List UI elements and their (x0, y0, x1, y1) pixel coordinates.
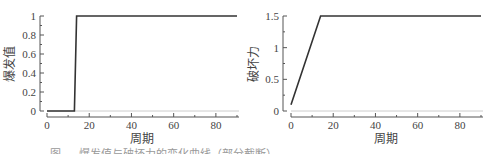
x-tick-label: 40 (370, 119, 382, 131)
y-tick-label: 0.4 (22, 67, 36, 79)
x-axis-label: 周期 (374, 132, 398, 146)
figure-caption: 图 — 爆发值与破坏力的变化曲线（部分截断） (50, 147, 277, 154)
chart-destructive-power: 00.511.5020406080周期破坏力 (246, 10, 483, 146)
x-tick-label: 80 (454, 119, 466, 131)
y-axis-label: 破坏力 (246, 46, 261, 82)
y-tick-label: 0 (274, 105, 280, 117)
y-tick-label: 0.5 (265, 73, 279, 85)
x-axis-label: 周期 (130, 132, 154, 146)
y-tick-label: 1.5 (265, 10, 279, 22)
x-tick-label: 80 (210, 119, 222, 131)
series-line (291, 16, 481, 105)
series-line (47, 16, 237, 111)
y-tick-label: 0.8 (22, 29, 36, 41)
x-tick-label: 20 (328, 119, 340, 131)
y-tick-label: 0.2 (22, 86, 36, 98)
x-tick-label: 20 (84, 119, 96, 131)
x-tick-label: 0 (288, 119, 294, 131)
x-tick-label: 60 (412, 119, 424, 131)
x-tick-label: 60 (168, 119, 180, 131)
y-axis-label: 爆发值 (2, 46, 17, 82)
y-tick-label: 0 (31, 105, 37, 117)
y-tick-label: 1 (31, 10, 37, 22)
chart-burst-value: 00.20.40.60.81020406080周期爆发值 (2, 10, 239, 146)
x-tick-label: 40 (126, 119, 138, 131)
figure: 00.20.40.60.81020406080周期爆发值 00.511.5020… (0, 0, 486, 154)
x-tick-label: 0 (44, 119, 50, 131)
y-tick-label: 0.6 (22, 48, 36, 60)
y-tick-label: 1 (274, 42, 280, 54)
